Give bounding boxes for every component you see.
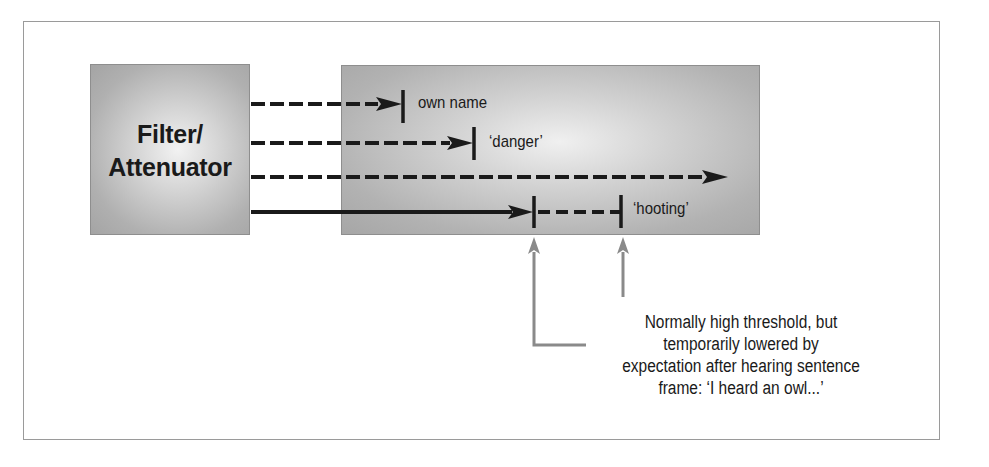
pointer-normal-threshold [617, 237, 629, 297]
threshold-annotation: Normally high threshold, but temporarily… [596, 311, 886, 399]
label-hooting: ‘hooting’ [633, 199, 689, 219]
annotation-line-1: Normally high threshold, but [616, 311, 865, 333]
channel-hooting [251, 195, 621, 228]
channel-pass-through [251, 170, 728, 184]
channel-danger [251, 127, 474, 160]
arrowhead-icon [376, 97, 402, 111]
pointer-lowered-threshold [252, 237, 586, 345]
channel-own-name [251, 90, 403, 123]
up-arrow-icon [617, 237, 629, 254]
up-arrow-icon [528, 237, 540, 254]
annotation-line-2: temporarily lowered by [616, 333, 865, 355]
arrowhead-icon [447, 136, 473, 150]
label-danger: ‘danger’ [489, 132, 543, 152]
arrowhead-icon [702, 170, 728, 184]
annotation-line-4: frame: ‘I heard an owl...’ [616, 377, 865, 399]
annotation-line-3: expectation after hearing sentence [616, 355, 865, 377]
label-own-name: own name [418, 93, 487, 113]
